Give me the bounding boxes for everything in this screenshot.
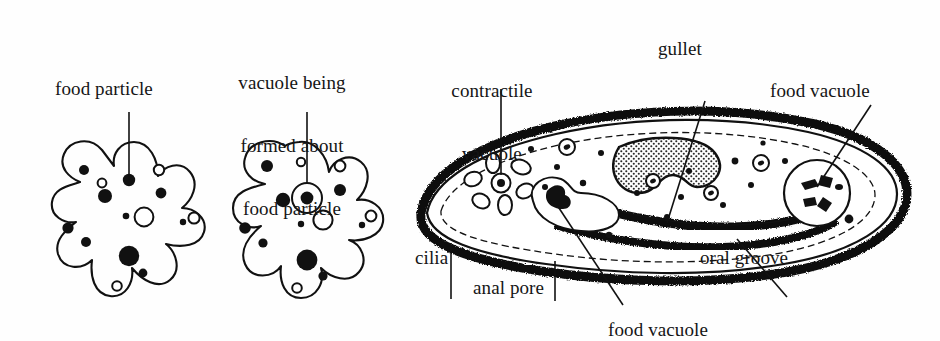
amoeba-1-vacuoles — [98, 165, 200, 291]
label-food-vacuole: food vacuole — [770, 80, 870, 101]
label-contractile-line-1: contractile — [432, 80, 552, 101]
label-vacuole-forming: vacuole being formed about food particle — [212, 30, 372, 261]
label-contractile-line-2: vacuole — [432, 143, 552, 164]
figure-canvas: food particle vacuole being formed about… — [0, 0, 940, 341]
label-oral-groove: oral groove — [700, 247, 788, 268]
label-vacuole-line-2: formed about — [212, 135, 372, 156]
label-vacuole-line-3: food particle — [212, 198, 372, 219]
label-cilia: cilia — [415, 247, 448, 268]
label-contractile-vacuole: contractile vacuole — [432, 38, 552, 206]
label-anal-pore: anal pore — [473, 277, 544, 298]
label-vacuole-line-1: vacuole being — [212, 72, 372, 93]
label-fv-forming-line-1: food vacuole — [588, 319, 728, 340]
label-food-particle: food particle — [55, 78, 153, 99]
label-gullet: gullet — [658, 38, 702, 59]
label-food-vacuole-forming: food vacuole forming — [588, 277, 728, 341]
